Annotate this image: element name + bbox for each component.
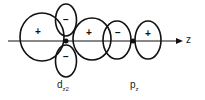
sign-d-left: + <box>35 27 41 37</box>
dz2-label: dz2 <box>57 80 69 92</box>
z-axis-label: z <box>186 35 191 45</box>
pz-positive-lobe <box>135 21 161 59</box>
sign-d-right: + <box>86 28 92 38</box>
dz2-right-lobe <box>73 18 111 60</box>
sign-p-left: − <box>115 28 121 38</box>
orbital-overlap-diagram <box>0 0 205 100</box>
pz-label: pz <box>130 80 139 92</box>
sign-d-bottom: − <box>63 52 69 62</box>
z-axis-arrowhead <box>176 38 183 44</box>
sign-d-top: − <box>63 15 69 25</box>
p-nucleus <box>131 39 136 44</box>
d-nucleus <box>64 39 69 44</box>
sign-p-right: + <box>145 29 151 39</box>
